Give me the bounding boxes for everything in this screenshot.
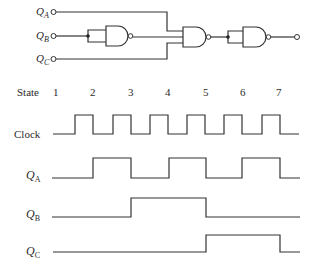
waveform-qc	[53, 235, 300, 252]
state-label-3: 3	[128, 86, 134, 98]
signal-label-qc: QC	[26, 245, 40, 262]
input-pin-qc	[51, 57, 56, 62]
waveform-qa	[52, 158, 300, 178]
nand-gate-2	[183, 27, 206, 47]
signal-qa-text: Q	[26, 168, 35, 182]
nand-gate-1	[106, 26, 128, 46]
signal-label-clock: Clock	[14, 128, 40, 140]
waveform-qb	[52, 198, 300, 217]
state-header-label: State	[17, 86, 39, 98]
state-label-6: 6	[240, 86, 246, 98]
wire-gate3-in-top	[228, 31, 243, 37]
label-qc: QC	[36, 52, 49, 69]
wire-gate3-in-bottom	[228, 37, 243, 43]
signal-qc-text: Q	[26, 244, 35, 258]
label-qb: QB	[36, 29, 49, 46]
signal-label-qa: QA	[26, 169, 40, 186]
signal-qc-sub: C	[35, 251, 40, 260]
label-qa-text: Q	[36, 5, 44, 17]
gate2-bubble	[206, 35, 211, 40]
label-qc-sub: C	[44, 58, 49, 67]
junction-dot	[86, 34, 90, 38]
state-label-7: 7	[276, 86, 282, 98]
input-pin-qa	[51, 10, 56, 15]
nand-gate-3	[243, 27, 266, 47]
input-pin-qb	[51, 34, 56, 39]
state-label-1: 1	[53, 86, 59, 98]
state-label-2: 2	[90, 86, 96, 98]
label-qb-sub: B	[44, 35, 49, 44]
circuit	[51, 10, 300, 62]
label-qb-text: Q	[36, 29, 44, 41]
junction-dot	[226, 35, 230, 39]
wire-qb-to-gate1-top	[88, 30, 106, 36]
signal-label-qb: QB	[26, 208, 40, 225]
signal-qb-text: Q	[26, 207, 35, 221]
gate1-bubble	[128, 34, 133, 39]
label-qa-sub: A	[44, 11, 49, 20]
state-label-5: 5	[203, 86, 209, 98]
signal-qa-sub: A	[35, 175, 41, 184]
gate3-bubble	[266, 35, 271, 40]
state-label-4: 4	[165, 86, 171, 98]
timing-diagram	[52, 115, 300, 252]
label-qc-text: Q	[36, 52, 44, 64]
signal-qb-sub: B	[35, 214, 40, 223]
wire-qb-to-gate1-bottom	[88, 36, 106, 42]
output-pin	[295, 35, 300, 40]
label-qa: QA	[36, 5, 49, 22]
waveform-clock	[53, 115, 299, 134]
